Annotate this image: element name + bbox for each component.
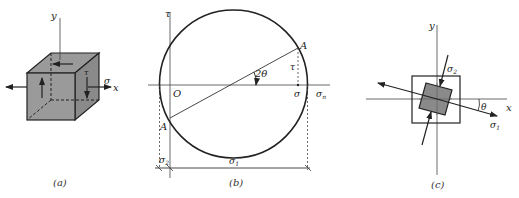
sigma-n-axis-label: σn [316,89,326,100]
tau-value-label: τ [290,62,296,72]
sigma2-label-c: σ2 [447,64,457,75]
panel-c-principal-element: y x θ σ1 σ2 (c) [366,20,512,190]
sigma2-label-b: σ2 [159,155,169,166]
stress-diagram: y x σ τ (a) τ O A A 2θ τ σ σn σ1 [0,0,519,198]
y-axis-label-a: y [50,10,57,21]
y-axis-label-c: y [428,20,435,31]
angle-2theta-label: 2θ [254,68,267,79]
sigma-value-label: σ [294,89,301,99]
origin-label: O [173,88,181,99]
x-axis-label-c: x [506,102,512,113]
sigma2-arrow-bottom [422,112,431,145]
panel-b-mohr-circle: τ O A A 2θ τ σ σn σ1 σ2 (b) [148,8,330,188]
tau-axis-label: τ [165,8,171,19]
x-axis-label-a: x [113,82,119,93]
diameter-line [170,48,298,118]
point-a-label: A [299,40,307,51]
sigma1-label-c: σ1 [490,120,500,131]
panel-a-stress-cube: y x σ τ (a) [6,10,119,188]
sigma-label-a: σ [104,76,111,86]
mohr-circle [160,10,308,158]
caption-b: (b) [229,177,243,188]
point-a-prime-label: A [159,121,167,132]
theta-label-c: θ [481,102,487,112]
angle-arc-theta [478,99,479,111]
tau-label-a: τ [84,68,89,77]
caption-c: (c) [431,179,445,190]
caption-a: (a) [53,177,67,188]
